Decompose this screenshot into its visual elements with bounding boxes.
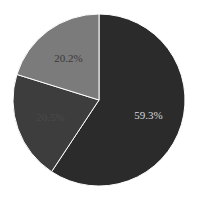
slice-label: 59.3% [134,109,162,121]
pie-chart: 59.3%20.5%20.2% [0,0,198,204]
slice-label: 20.2% [54,52,82,64]
pie-slices [13,14,185,186]
slice-label: 20.5% [36,111,64,123]
